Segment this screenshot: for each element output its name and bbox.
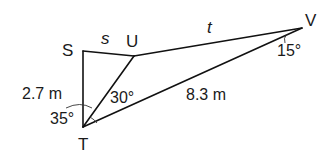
side-label-t: t — [207, 18, 213, 37]
angle-label-v-15: 15° — [277, 42, 301, 59]
side-label-s: s — [101, 29, 110, 48]
side-label-st-length: 2.7 m — [22, 85, 62, 102]
triangle-diagram: S U V T s t 2.7 m 8.3 m 35° 30° 15° — [0, 0, 335, 153]
vertex-label-t: T — [78, 135, 88, 153]
segment-su — [83, 51, 134, 56]
angle-label-t-30: 30° — [110, 89, 134, 106]
vertex-label-v: V — [305, 11, 317, 30]
angle-label-t-35: 35° — [50, 110, 74, 127]
vertex-label-s: S — [62, 41, 73, 60]
segment-tv — [83, 28, 302, 127]
vertex-label-u: U — [126, 32, 138, 51]
angle-arc-t-35 — [66, 105, 92, 109]
side-label-tv-length: 8.3 m — [186, 86, 226, 103]
